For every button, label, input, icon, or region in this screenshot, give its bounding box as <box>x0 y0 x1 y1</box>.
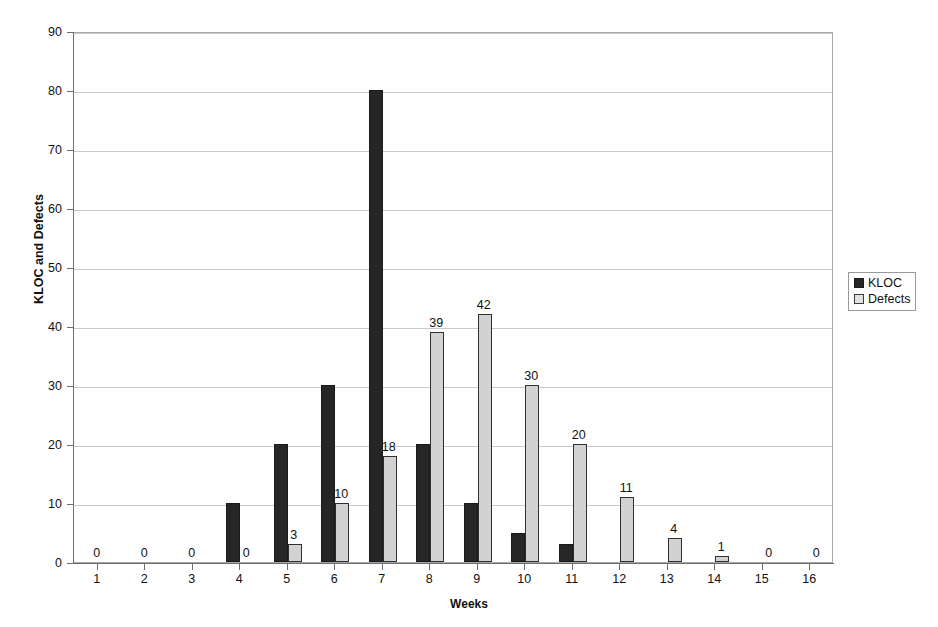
bar-value-label: 11 <box>606 482 646 495</box>
legend-label-defects: Defects <box>868 293 910 306</box>
y-tick <box>67 445 73 446</box>
chart-legend: KLOC Defects <box>848 272 916 311</box>
y-tick <box>67 150 73 151</box>
x-tick-label: 9 <box>453 573 501 586</box>
y-tick-label: 90 <box>0 26 62 39</box>
y-axis-line <box>73 32 74 563</box>
kloc-swatch-icon <box>854 278 864 288</box>
x-tick-label: 8 <box>405 573 453 586</box>
x-tick-label: 10 <box>500 573 548 586</box>
x-tick-label: 5 <box>263 573 311 586</box>
y-tick <box>67 209 73 210</box>
bar-defects <box>525 385 539 562</box>
y-tick <box>67 91 73 92</box>
y-tick-label: 40 <box>0 321 62 334</box>
legend-item-kloc[interactable]: KLOC <box>854 277 910 290</box>
y-tick <box>67 268 73 269</box>
gridline <box>74 505 832 506</box>
x-tick <box>192 564 193 570</box>
y-tick <box>67 504 73 505</box>
bar-kloc <box>464 503 478 562</box>
y-axis-title: KLOC and Defects <box>32 174 46 324</box>
x-tick <box>334 564 335 570</box>
bar-chart: 0102030405060708090 KLOC and Defects 123… <box>0 0 938 627</box>
y-tick-label: 70 <box>0 144 62 157</box>
x-tick <box>572 564 573 570</box>
x-tick <box>524 564 525 570</box>
x-axis-title: Weeks <box>0 597 938 611</box>
x-tick-label: 1 <box>73 573 121 586</box>
bar-value-label: 0 <box>796 547 836 560</box>
bar-kloc <box>416 444 430 562</box>
x-tick <box>619 564 620 570</box>
gridline <box>74 33 832 34</box>
defects-swatch-icon <box>854 294 864 304</box>
x-tick-label: 14 <box>690 573 738 586</box>
bar-kloc <box>559 544 573 562</box>
bar-kloc <box>274 444 288 562</box>
y-tick-label: 20 <box>0 439 62 452</box>
x-tick-label: 12 <box>595 573 643 586</box>
gridline <box>74 92 832 93</box>
x-tick <box>762 564 763 570</box>
x-tick-label: 4 <box>215 573 263 586</box>
x-tick-label: 7 <box>358 573 406 586</box>
bar-defects <box>620 497 634 562</box>
bar-value-label: 4 <box>654 523 694 536</box>
x-tick-label: 15 <box>738 573 786 586</box>
bar-defects <box>288 544 302 562</box>
x-tick <box>144 564 145 570</box>
bar-kloc <box>369 90 383 562</box>
x-tick <box>97 564 98 570</box>
x-tick-label: 13 <box>643 573 691 586</box>
bar-defects <box>430 332 444 562</box>
y-tick <box>67 32 73 33</box>
x-tick <box>667 564 668 570</box>
x-tick <box>429 564 430 570</box>
bar-defects <box>383 456 397 562</box>
x-tick <box>477 564 478 570</box>
x-tick <box>382 564 383 570</box>
gridline <box>74 210 832 211</box>
gridline <box>74 387 832 388</box>
x-tick <box>714 564 715 570</box>
bar-defects <box>573 444 587 562</box>
bar-value-label: 20 <box>559 429 599 442</box>
bar-value-label: 0 <box>172 547 212 560</box>
x-tick-label: 16 <box>785 573 833 586</box>
y-tick <box>67 327 73 328</box>
y-tick <box>67 386 73 387</box>
bar-value-label: 30 <box>511 370 551 383</box>
y-tick-label: 50 <box>0 262 62 275</box>
bar-value-label: 3 <box>274 529 314 542</box>
x-axis-line <box>73 563 834 564</box>
bar-value-label: 39 <box>416 317 456 330</box>
x-tick <box>239 564 240 570</box>
gridline <box>74 269 832 270</box>
bar-kloc <box>511 533 525 563</box>
bar-value-label: 0 <box>77 547 117 560</box>
plot-area <box>73 32 833 563</box>
y-tick-label: 60 <box>0 203 62 216</box>
bar-value-label: 0 <box>226 547 266 560</box>
bar-defects <box>478 314 492 562</box>
bar-kloc <box>321 385 335 562</box>
bar-value-label: 0 <box>124 547 164 560</box>
legend-item-defects[interactable]: Defects <box>854 293 910 306</box>
y-tick-label: 30 <box>0 380 62 393</box>
bar-value-label: 0 <box>749 547 789 560</box>
gridline <box>74 446 832 447</box>
x-tick-label: 11 <box>548 573 596 586</box>
y-tick-label: 10 <box>0 498 62 511</box>
gridline <box>74 151 832 152</box>
bar-defects <box>335 503 349 562</box>
x-tick-label: 6 <box>310 573 358 586</box>
x-tick <box>287 564 288 570</box>
bar-defects <box>715 556 729 562</box>
y-tick-label: 0 <box>0 557 62 570</box>
x-tick-label: 2 <box>120 573 168 586</box>
legend-label-kloc: KLOC <box>868 277 902 290</box>
bar-defects <box>668 538 682 562</box>
bar-value-label: 18 <box>369 441 409 454</box>
x-tick-label: 3 <box>168 573 216 586</box>
